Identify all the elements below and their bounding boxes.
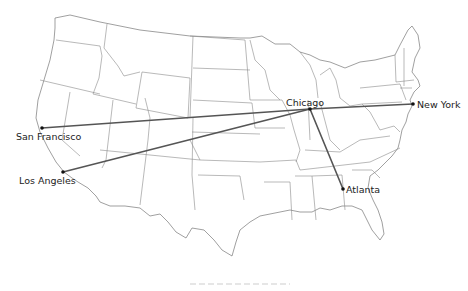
city-dot-icon <box>411 102 415 106</box>
map-caption-placeholder <box>190 283 290 285</box>
state-borders <box>36 15 420 256</box>
city-marker: Los Angeles <box>19 170 76 186</box>
route-line <box>310 104 413 109</box>
city-label: San Francisco <box>16 131 81 142</box>
city-dot-icon <box>40 126 44 130</box>
city-label: Chicago <box>286 97 324 108</box>
city-label: Los Angeles <box>19 175 76 186</box>
cities: ChicagoNew YorkSan FranciscoLos AngelesA… <box>16 97 461 195</box>
city-marker: San Francisco <box>16 126 81 142</box>
routes <box>42 104 413 189</box>
city-dot-icon <box>341 187 345 191</box>
us-map: ChicagoNew YorkSan FranciscoLos AngelesA… <box>0 0 468 291</box>
city-label: Atlanta <box>346 184 380 195</box>
city-marker: New York <box>411 99 461 110</box>
city-marker: Atlanta <box>341 184 380 195</box>
route-line <box>310 109 343 189</box>
city-dot-icon <box>61 170 65 174</box>
city-label: New York <box>417 99 461 110</box>
